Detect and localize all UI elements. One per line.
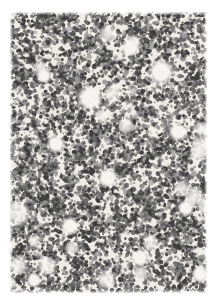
page-margin-right <box>207 0 215 297</box>
texture-plate-page <box>0 0 215 297</box>
page-margin-top <box>0 0 215 12</box>
speckle-texture-canvas <box>10 12 207 293</box>
page-margin-left <box>0 0 10 297</box>
page-margin-bottom <box>0 293 215 297</box>
speckle-texture-figure <box>10 12 207 293</box>
